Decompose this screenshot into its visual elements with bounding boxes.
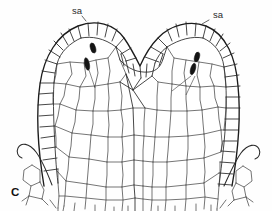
label-sa-right: sa bbox=[213, 9, 224, 20]
panel-label-c: C bbox=[11, 186, 19, 198]
lower-cut-margin bbox=[50, 200, 226, 211]
meristem-line-drawing: sa sa C bbox=[0, 0, 272, 211]
figure-panel-c: sa sa C bbox=[0, 0, 272, 211]
apex-outline bbox=[38, 23, 239, 186]
apex-outline-group bbox=[38, 23, 239, 186]
label-sa-left: sa bbox=[72, 5, 83, 16]
